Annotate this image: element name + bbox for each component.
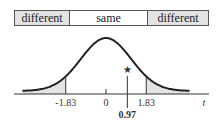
tick-label-pos: 1.83 — [138, 97, 156, 108]
tick-label-zero: 0 — [104, 97, 109, 108]
t-distribution-diagram: ★ -1.83 0 1.83 t 0.97 — [0, 0, 217, 124]
observed-value-label: 0.97 — [119, 109, 137, 120]
distribution-curve — [22, 38, 189, 91]
observed-star-icon: ★ — [123, 64, 132, 75]
tick-label-neg: -1.83 — [55, 97, 76, 108]
axis-variable-label: t — [203, 97, 206, 108]
